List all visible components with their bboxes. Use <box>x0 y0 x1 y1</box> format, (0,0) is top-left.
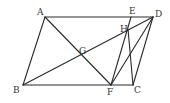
label-A: A <box>36 7 44 17</box>
label-D: D <box>155 9 162 19</box>
label-H: H <box>120 24 128 34</box>
label-F: F <box>107 87 113 97</box>
segments <box>23 17 153 85</box>
label-E: E <box>129 6 136 16</box>
segment-AF <box>45 17 111 85</box>
label-C: C <box>134 85 141 95</box>
segment-DC <box>133 17 153 85</box>
label-G: G <box>79 46 86 56</box>
segment-BD <box>23 17 153 85</box>
geometry-diagram: A E D H G B F C <box>0 0 170 103</box>
label-B: B <box>13 85 20 95</box>
